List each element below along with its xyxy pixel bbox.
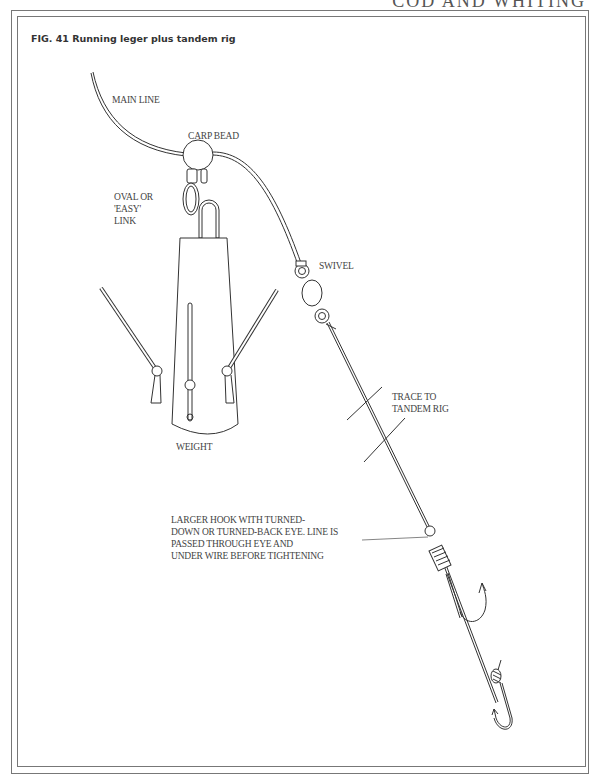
small-hook-drawing [491, 660, 512, 729]
main-line-drawing [91, 72, 186, 156]
wire-arm-left [101, 288, 162, 403]
trace-line [327, 322, 498, 703]
carp-bead-label: CARP BEAD [188, 130, 239, 142]
main-line-label: MAIN LINE [112, 94, 160, 106]
larger-hook-label: LARGER HOOK WITH TURNED- DOWN OR TURNED-… [171, 514, 338, 562]
oval-link-drawing [183, 169, 219, 238]
oval-link-label: OVAL OR 'EASY' LINK [114, 191, 153, 227]
weight-label: WEIGHT [176, 441, 212, 453]
swivel-label: SWIVEL [319, 260, 354, 272]
carp-bead-shape [183, 140, 213, 170]
rig-diagram [0, 0, 594, 781]
weight-shape [172, 238, 238, 434]
trace-label: TRACE TO TANDEM RIG [392, 391, 449, 415]
larger-hook-drawing [425, 526, 486, 622]
